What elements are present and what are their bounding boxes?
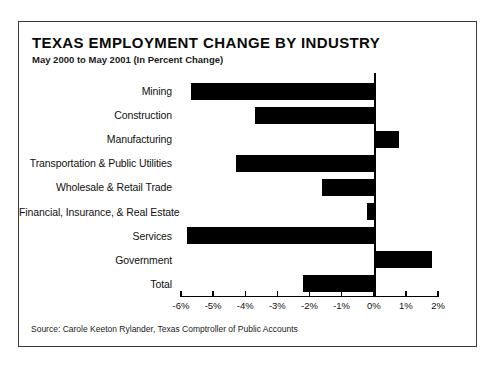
chart-frame: TEXAS EMPLOYMENT CHANGE BY INDUSTRY May … xyxy=(18,21,477,347)
bar xyxy=(191,83,374,100)
bar-track xyxy=(181,179,438,196)
bar-track xyxy=(181,107,438,124)
category-label: Manufacturing xyxy=(19,133,181,145)
source-note: Source: Carole Keeton Rylander, Texas Co… xyxy=(31,324,298,334)
bar-rows: MiningConstructionManufacturingTransport… xyxy=(19,79,478,296)
chart-row: Transportation & Public Utilities xyxy=(19,151,478,175)
axis-tick-label: -6% xyxy=(173,300,190,311)
axis-tick-label: -4% xyxy=(237,300,254,311)
axis-tick-label: -1% xyxy=(333,300,350,311)
axis-tick-label: -2% xyxy=(301,300,318,311)
bar-track xyxy=(181,131,438,148)
bar xyxy=(374,131,400,148)
chart-subtitle: May 2000 to May 2001 (In Percent Change) xyxy=(32,54,223,65)
category-label: Financial, Insurance, & Real Estate xyxy=(19,206,181,218)
axis-tick-label: 1% xyxy=(399,300,413,311)
category-label: Transportation & Public Utilities xyxy=(19,157,181,169)
category-label: Mining xyxy=(19,85,181,97)
axis-tick xyxy=(180,291,182,297)
chart-row: Financial, Insurance, & Real Estate xyxy=(19,199,478,223)
bar xyxy=(374,251,432,268)
axis-tick xyxy=(245,291,247,297)
category-label: Wholesale & Retail Trade xyxy=(19,181,181,193)
axis-tick xyxy=(212,291,214,297)
chart-title: TEXAS EMPLOYMENT CHANGE BY INDUSTRY xyxy=(32,34,380,51)
chart-row: Total xyxy=(19,272,478,296)
chart-row: Government xyxy=(19,248,478,272)
x-axis-labels: -6%-5%-4%-3%-2%-1%0%1%2% xyxy=(181,300,438,314)
bar-track xyxy=(181,155,438,172)
category-label: Government xyxy=(19,254,181,266)
zero-axis-line xyxy=(374,73,376,296)
bar xyxy=(322,179,373,196)
chart-row: Construction xyxy=(19,103,478,127)
axis-tick xyxy=(437,291,439,297)
chart-row: Mining xyxy=(19,79,478,103)
bar xyxy=(303,275,374,292)
axis-tick-label: -3% xyxy=(269,300,286,311)
category-label: Services xyxy=(19,230,181,242)
axis-tick xyxy=(341,291,343,297)
bar-track xyxy=(181,227,438,244)
axis-tick-label: 0% xyxy=(367,300,381,311)
axis-tick xyxy=(405,291,407,297)
bar-track xyxy=(181,275,438,292)
category-label: Construction xyxy=(19,109,181,121)
bar xyxy=(187,227,373,244)
chart-row: Services xyxy=(19,224,478,248)
axis-tick xyxy=(309,291,311,297)
bar-track xyxy=(181,251,438,268)
category-label: Total xyxy=(19,278,181,290)
axis-tick-label: -5% xyxy=(205,300,222,311)
chart-figure: TEXAS EMPLOYMENT CHANGE BY INDUSTRY May … xyxy=(0,0,495,367)
bar-track xyxy=(181,203,438,220)
x-axis-line xyxy=(181,296,438,297)
bar xyxy=(255,107,374,124)
axis-tick xyxy=(277,291,279,297)
bar xyxy=(236,155,374,172)
plot-area: MiningConstructionManufacturingTransport… xyxy=(19,79,478,314)
axis-tick-label: 2% xyxy=(431,300,445,311)
chart-row: Manufacturing xyxy=(19,127,478,151)
bar-track xyxy=(181,83,438,100)
chart-row: Wholesale & Retail Trade xyxy=(19,175,478,199)
